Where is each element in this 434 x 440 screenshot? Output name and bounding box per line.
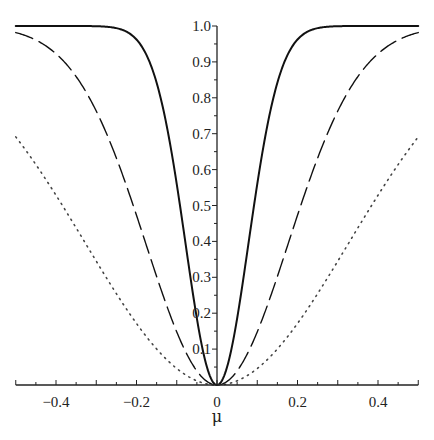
y-tick-label: 0.2 bbox=[192, 305, 211, 321]
y-tick-label: 0.6 bbox=[192, 162, 211, 178]
x-tick-label: −0.4 bbox=[42, 394, 70, 410]
y-tick-label: 0.7 bbox=[192, 126, 211, 142]
y-tick-label: 0.8 bbox=[192, 90, 211, 106]
y-tick-label: 0.9 bbox=[192, 54, 211, 70]
x-tick-label: 0.4 bbox=[369, 394, 388, 410]
y-tick-label: 1.0 bbox=[192, 18, 211, 34]
y-tick-label: 0.3 bbox=[192, 269, 211, 285]
x-axis-title: μ bbox=[212, 407, 222, 426]
y-tick-label: 0.4 bbox=[192, 233, 211, 249]
x-tick-label: −0.2 bbox=[123, 394, 150, 410]
y-tick-label: 0.5 bbox=[192, 198, 211, 214]
line-chart: −0.4−0.200.20.40.10.20.30.40.50.60.70.80… bbox=[0, 0, 434, 440]
x-tick-label: 0.2 bbox=[288, 394, 307, 410]
y-tick-label: 0.1 bbox=[192, 341, 211, 357]
